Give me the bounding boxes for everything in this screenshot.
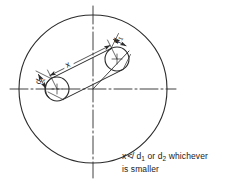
dimension-label-x: x [64, 59, 73, 70]
x-dimension-line-a [50, 69, 64, 76]
note-relation-symbol: ≮ [126, 150, 134, 161]
note-d1-subscript: 1 [141, 155, 145, 162]
radial-leader [93, 51, 129, 89]
note-line-2: is smaller [122, 164, 242, 175]
note-tail: whichever [169, 151, 208, 161]
figure-note: x≮ d1 or d2 whichever is smaller [122, 150, 242, 175]
note-d2-subscript: 2 [163, 155, 167, 162]
note-or: or [148, 151, 156, 161]
slot-tangent-upper [51, 49, 111, 79]
figure-canvas: x d1 d2 x≮ d1 or d2 whichever is smaller [0, 0, 244, 187]
